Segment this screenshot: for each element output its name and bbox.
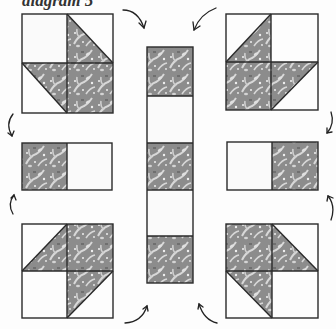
arrow-bottom-left-icon	[125, 306, 148, 323]
arrow-left-lower-icon	[10, 195, 16, 214]
block-bottom-left	[22, 224, 113, 318]
arrow-right-upper-icon	[327, 112, 332, 133]
arrow-top-left-icon	[123, 10, 146, 28]
arrow-left-upper-icon	[8, 114, 14, 136]
block-middle-left	[22, 143, 112, 190]
arrow-top-right-icon	[193, 8, 216, 30]
block-top-left	[22, 14, 113, 113]
center-column	[147, 47, 193, 283]
quilt-assembly-diagram	[0, 0, 336, 329]
arrow-right-lower-icon	[327, 196, 333, 220]
arrow-bottom-right-icon	[198, 304, 217, 323]
block-top-right	[226, 14, 318, 110]
block-middle-right	[227, 142, 318, 190]
block-bottom-right	[226, 224, 318, 318]
